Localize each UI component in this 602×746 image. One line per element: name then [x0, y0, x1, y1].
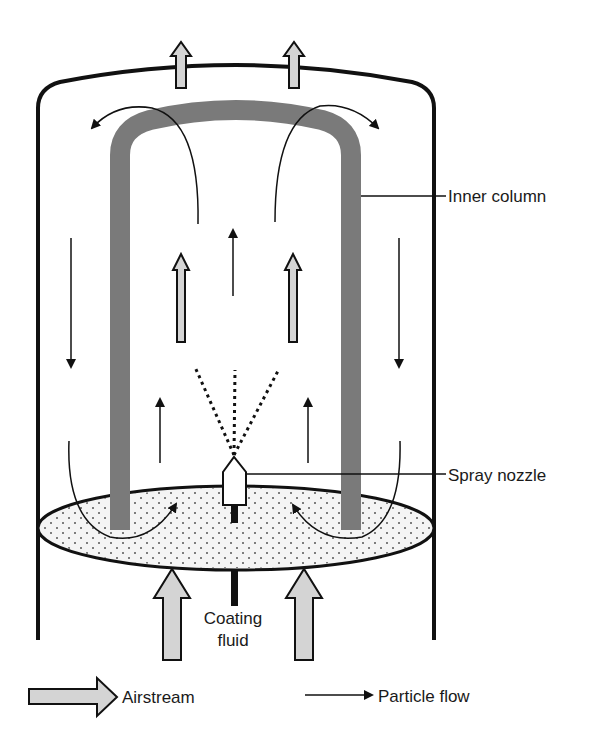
legend-particle-flow-label: Particle flow [378, 687, 470, 706]
inlet-airstream-arrow-right [286, 569, 322, 660]
legend-airstream-icon [29, 678, 117, 716]
legend-airstream-label: Airstream [122, 688, 195, 707]
spray-nozzle-label: Spray nozzle [448, 466, 546, 485]
legend: Airstream Particle flow [29, 678, 470, 716]
coating-fluid-label-line1: Coating [204, 609, 263, 628]
wurster-coater-diagram: Inner column Spray nozzle Coating fluid [0, 0, 602, 746]
airstream-arrow-inner-right [285, 254, 301, 342]
inlet-airstream-arrow-left [154, 569, 190, 660]
spray-cone [195, 367, 279, 455]
coating-fluid-feed-line [231, 570, 238, 606]
inner-column-label: Inner column [448, 187, 546, 206]
coating-fluid-label-line2: fluid [217, 631, 248, 650]
airstream-arrow-inner-left [173, 254, 189, 342]
